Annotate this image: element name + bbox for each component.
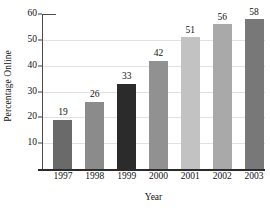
- bar-value-label: 51: [186, 26, 196, 36]
- bar-value-label: 26: [90, 90, 100, 100]
- x-axis-tick-label: 2003: [245, 172, 264, 182]
- bar-value-label: 58: [249, 8, 259, 18]
- plot-frame-top-spine: [42, 14, 56, 15]
- y-axis-tick-label: 40: [28, 61, 38, 71]
- y-axis-tick-labels: 102030405060: [16, 0, 38, 172]
- bar: 56: [213, 24, 232, 169]
- y-axis-tick-label: 60: [28, 9, 38, 19]
- bar-value-label: 42: [154, 49, 164, 59]
- y-axis-tick-label: 20: [28, 113, 38, 123]
- x-axis-tick-label: 1997: [53, 172, 72, 182]
- plot-area: 19263342515658: [42, 14, 265, 169]
- y-axis-tick-label: 30: [28, 87, 38, 97]
- y-axis-tick-label: 10: [28, 138, 38, 148]
- bar: 33: [117, 84, 136, 169]
- x-axis-tick-label: 1998: [85, 172, 104, 182]
- x-axis-tick-label: 1999: [117, 172, 136, 182]
- x-axis-title-label: Year: [145, 192, 163, 202]
- x-axis-tick-labels: 1997199819992000200120022003: [42, 172, 265, 188]
- y-axis-title: Percentage Online: [0, 0, 16, 172]
- x-axis-tick-label: 2002: [213, 172, 232, 182]
- bar-value-label: 19: [58, 108, 68, 118]
- y-axis-tick-label: 50: [28, 35, 38, 45]
- bar-value-label: 56: [217, 13, 227, 23]
- bar: 26: [85, 102, 104, 169]
- bar: 58: [245, 19, 264, 169]
- x-axis-title: Year: [42, 192, 265, 202]
- bar: 42: [149, 61, 168, 170]
- bar-value-label: 33: [122, 72, 132, 82]
- bar-chart: Percentage Online 102030405060 192633425…: [0, 0, 270, 212]
- x-axis-tick-label: 2000: [149, 172, 168, 182]
- bar: 51: [181, 37, 200, 169]
- y-axis-title-label: Percentage Online: [3, 50, 13, 122]
- x-axis-tick-label: 2001: [181, 172, 200, 182]
- bar: 19: [53, 120, 72, 169]
